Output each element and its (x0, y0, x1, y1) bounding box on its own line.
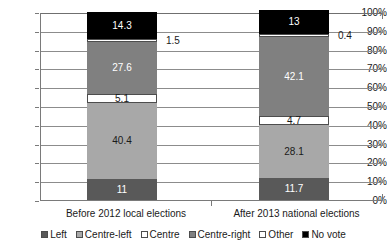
segment-value-label: 14.3 (112, 21, 131, 31)
frame-cap-bottom (382, 194, 383, 200)
legend-label: Centre (150, 229, 180, 240)
segment-value-label: 1.5 (166, 36, 180, 46)
legend-label: Other (268, 229, 293, 240)
segment-centre[interactable]: 4.7 (259, 116, 329, 125)
legend-swatch-icon (259, 231, 266, 238)
segment-value-label: 11.7 (285, 184, 304, 194)
chart-legend: Left Centre-left Centre Centre-right Oth… (0, 229, 387, 240)
segment-centre[interactable]: 5.1 (87, 94, 157, 104)
plot-area: 14.3 1.5 27.6 5.1 40.4 11 13 0 (40, 13, 382, 201)
legend-label: Left (50, 229, 67, 240)
legend-swatch-icon (141, 231, 148, 238)
segment-centre-left[interactable]: 40.4 (87, 103, 157, 179)
legend-swatch-icon (76, 231, 83, 238)
y-tick-mark (35, 88, 39, 89)
segment-value-label: 42.1 (284, 72, 303, 82)
segment-value-label: 11 (117, 185, 127, 195)
segment-value-label: 0.4 (338, 31, 352, 41)
segment-no-vote[interactable]: 13 (259, 10, 329, 34)
legend-label: No vote (311, 229, 345, 240)
segment-value-label: 27.6 (112, 63, 131, 73)
segment-value-label: 5.1 (115, 94, 129, 104)
segment-centre-left[interactable]: 28.1 (259, 125, 329, 178)
x-category-label-1: After 2013 national elections (211, 208, 382, 219)
y-tick-mark (35, 69, 39, 70)
y-tick-mark (35, 163, 39, 164)
x-category-label-0: Before 2012 local elections (41, 208, 211, 219)
x-tick-mark (211, 201, 212, 206)
legend-label: Centre-left (85, 229, 132, 240)
segment-centre-right[interactable]: 27.6 (87, 42, 157, 94)
bar-before-2012[interactable]: 14.3 1.5 27.6 5.1 40.4 11 (87, 12, 157, 200)
legend-swatch-icon (41, 231, 48, 238)
legend-item-centre-right[interactable]: Centre-right (189, 229, 251, 240)
y-tick-mark (35, 32, 39, 33)
segment-centre-right[interactable]: 42.1 (259, 37, 329, 116)
legend-item-left[interactable]: Left (41, 229, 67, 240)
y-tick-mark (35, 182, 39, 183)
chart-container: 100% 90% 80% 70% 60% 50% 40% 30% 20% 10%… (0, 0, 387, 249)
y-tick-mark (35, 13, 39, 14)
bar-after-2013[interactable]: 13 0.4 42.1 4.7 28.1 11.7 (259, 10, 329, 200)
legend-swatch-icon (302, 231, 309, 238)
legend-item-centre[interactable]: Centre (141, 229, 180, 240)
legend-item-centre-left[interactable]: Centre-left (76, 229, 132, 240)
y-tick-mark (35, 51, 39, 52)
segment-value-label: 28.1 (284, 147, 303, 157)
segment-no-vote[interactable]: 14.3 (87, 12, 157, 39)
legend-item-other[interactable]: Other (259, 229, 293, 240)
y-tick-mark (35, 145, 39, 146)
y-tick-mark (35, 107, 39, 108)
segment-value-label: 40.4 (112, 136, 131, 146)
y-tick-mark (35, 126, 39, 127)
y-tick-mark (35, 201, 39, 202)
frame-cap-top (382, 13, 383, 19)
segment-value-label: 13 (288, 17, 299, 27)
legend-label: Centre-right (198, 229, 251, 240)
legend-swatch-icon (189, 231, 196, 238)
segment-left[interactable]: 11 (87, 179, 157, 200)
legend-item-no-vote[interactable]: No vote (302, 229, 345, 240)
segment-left[interactable]: 11.7 (259, 178, 329, 200)
